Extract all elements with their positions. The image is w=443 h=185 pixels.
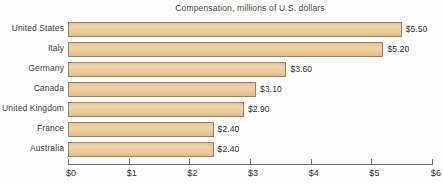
bar-italy xyxy=(68,42,383,57)
x-axis-tick xyxy=(189,159,190,165)
bar-canada xyxy=(68,82,256,97)
category-label-australia: Australia xyxy=(0,143,64,153)
bar-row: Germany$3.60 xyxy=(0,62,443,78)
bar-united-states xyxy=(68,22,402,37)
bar-value-label: $5.50 xyxy=(406,24,428,34)
x-axis-tick-label: $5 xyxy=(369,168,379,178)
bar-row: Italy$5.20 xyxy=(0,42,443,58)
bar-value-label: $3.60 xyxy=(290,64,312,74)
category-label-france: France xyxy=(0,123,64,133)
x-axis-tick xyxy=(371,159,372,165)
bar-value-label: $2.40 xyxy=(218,144,240,154)
bar-row: United States$5.50 xyxy=(0,22,443,38)
x-axis-tick-label: $3 xyxy=(248,168,258,178)
x-axis-tick-label: $0 xyxy=(66,168,76,178)
bar-row: France$2.40 xyxy=(0,122,443,138)
bar-chart: Compensation, millions of U.S. dollars U… xyxy=(0,0,443,185)
bar-row: United Kingdom$2.90 xyxy=(0,102,443,118)
x-axis-tick xyxy=(129,159,130,165)
bar-row: Canada$3.10 xyxy=(0,82,443,98)
bar-france xyxy=(68,122,214,137)
category-label-united-kingdom: United Kingdom xyxy=(0,103,64,113)
bar-united-kingdom xyxy=(68,102,244,117)
x-axis-tick-label: $6 xyxy=(431,168,441,178)
x-axis-tick-label: $1 xyxy=(127,168,137,178)
bar-germany xyxy=(68,62,286,77)
x-axis-tick-label: $4 xyxy=(309,168,319,178)
x-axis-tick xyxy=(250,159,251,165)
category-label-germany: Germany xyxy=(0,63,64,73)
bar-australia xyxy=(68,142,214,157)
bar-value-label: $5.20 xyxy=(387,44,409,54)
plot-area: United States$5.50Italy$5.20Germany$3.60… xyxy=(0,18,443,164)
bar-value-label: $2.40 xyxy=(218,124,240,134)
x-axis-tick xyxy=(311,159,312,165)
chart-title: Compensation, millions of U.S. dollars xyxy=(68,3,432,13)
bar-value-label: $2.90 xyxy=(248,104,270,114)
category-label-italy: Italy xyxy=(0,43,64,53)
bar-value-label: $3.10 xyxy=(260,84,282,94)
x-axis-tick xyxy=(432,159,433,165)
category-label-canada: Canada xyxy=(0,83,64,93)
x-axis-tick xyxy=(68,159,69,165)
x-axis-tick-label: $2 xyxy=(187,168,197,178)
bar-row: Australia$2.40 xyxy=(0,142,443,158)
category-label-united-states: United States xyxy=(0,23,64,33)
